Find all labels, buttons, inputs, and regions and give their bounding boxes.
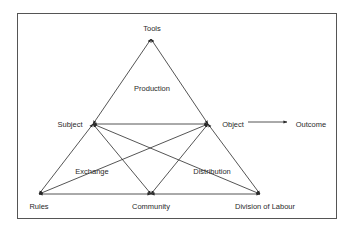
edge-tools-object	[151, 39, 208, 124]
edge-subject-division	[93, 124, 260, 194]
label-community: Community	[132, 203, 170, 211]
edge-object-community	[151, 124, 208, 194]
region-distribution: Distribution	[193, 168, 231, 176]
label-outcome: Outcome	[296, 121, 326, 129]
label-division-of-labour: Division of Labour	[235, 203, 295, 211]
region-production: Production	[134, 85, 170, 93]
activity-system-diagram	[0, 0, 353, 232]
label-object: Object	[222, 121, 244, 129]
label-tools: Tools	[143, 25, 161, 33]
label-rules: Rules	[29, 203, 48, 211]
diagram-frame	[18, 14, 337, 219]
label-subject: Subject	[57, 121, 82, 129]
edge-object-rules	[39, 124, 208, 194]
region-exchange: Exchange	[75, 168, 108, 176]
edge-subject-tools	[93, 39, 151, 124]
edge-subject-rules	[39, 124, 93, 194]
edge-subject-community	[93, 124, 151, 194]
